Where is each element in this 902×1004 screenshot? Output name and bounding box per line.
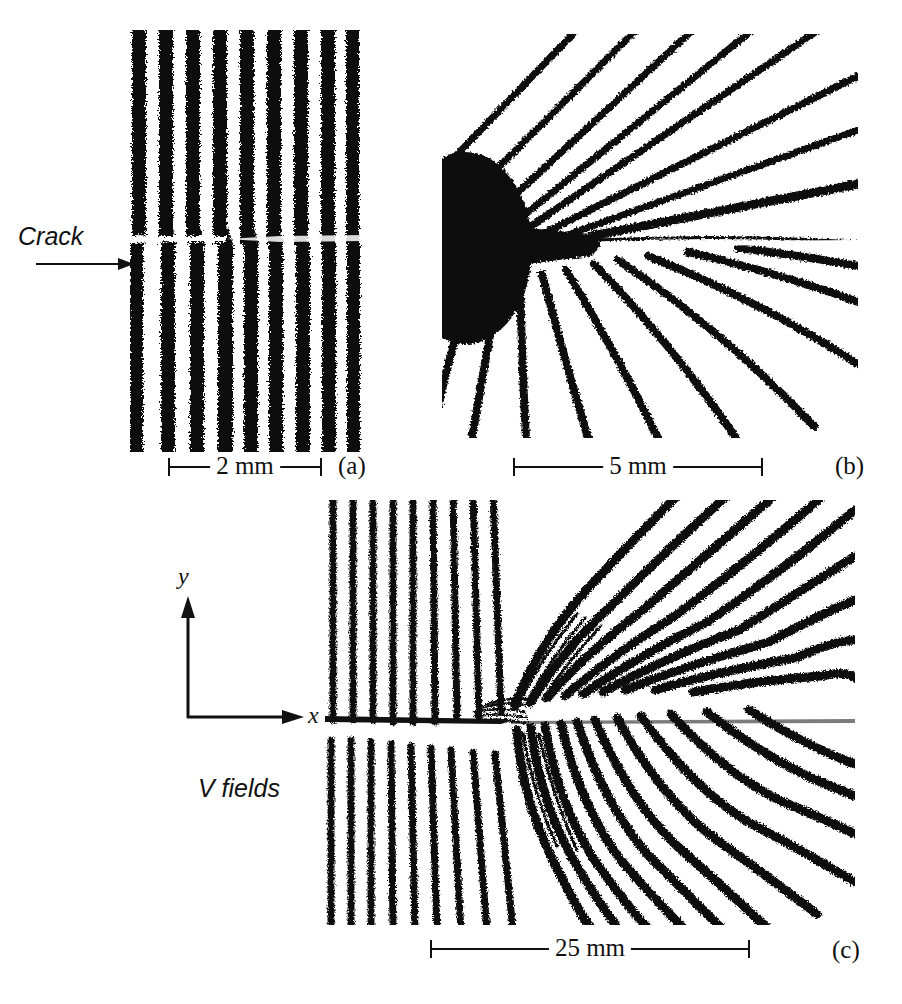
scalebar-label-c: 25 mm <box>549 934 631 962</box>
scalebar-tick-left-c <box>430 940 432 958</box>
axis-label-y: y <box>178 563 189 589</box>
figure-moire-fringe-fields: Crack 2 mm (a) <box>0 0 902 1004</box>
axis-indicator-icon <box>181 596 304 724</box>
scalebar-tick-right-b <box>761 458 763 476</box>
crack-arrow-icon <box>36 258 134 270</box>
scalebar-label-b: 5 mm <box>603 452 673 480</box>
panel-b-image <box>442 34 858 438</box>
panel-letter-c: (c) <box>832 936 860 964</box>
scalebar-panel-c: 25 mm <box>430 938 750 960</box>
scalebar-label-a: 2 mm <box>210 452 280 480</box>
crack-annotation-label: Crack <box>18 222 83 250</box>
scalebar-tick-left-a <box>168 458 170 476</box>
panel-letter-b: (b) <box>835 452 864 480</box>
scalebar-panel-a: 2 mm <box>168 456 322 478</box>
scalebar-tick-left-b <box>513 458 515 476</box>
scalebar-tick-right-a <box>320 458 322 476</box>
scalebar-panel-b: 5 mm <box>513 456 763 478</box>
panel-c-fringes <box>325 500 855 925</box>
scalebar-tick-right-c <box>748 940 750 958</box>
panel-a-image <box>130 30 366 452</box>
v-fields-label: V fields <box>198 774 280 802</box>
panel-b-fringes <box>442 34 858 438</box>
panel-letter-a: (a) <box>338 452 366 480</box>
panel-c-image <box>325 500 855 925</box>
panel-a-fringes <box>130 30 366 452</box>
axis-label-x: x <box>308 702 319 728</box>
